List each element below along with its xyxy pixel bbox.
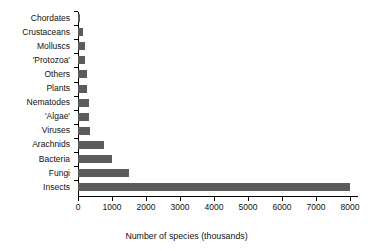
y-axis-tick-label: 'Algae' — [0, 112, 70, 120]
y-axis-tick — [74, 82, 78, 83]
bar — [78, 183, 350, 191]
x-axis-tick — [146, 197, 147, 201]
bar — [78, 28, 83, 36]
y-axis-tick — [74, 67, 78, 68]
x-axis-tick — [78, 197, 79, 201]
y-axis-tick-label: Nematodes — [0, 98, 70, 106]
x-axis-tick — [350, 197, 351, 201]
bar — [78, 70, 87, 78]
y-axis-category-labels: ChordatesCrustaceansMolluscs'Protozoa'Ot… — [0, 0, 74, 251]
y-axis-tick — [74, 152, 78, 153]
y-axis-tick-label: Chordates — [0, 14, 70, 22]
x-axis-tick — [316, 197, 317, 201]
x-axis-tick — [214, 197, 215, 201]
bar — [78, 14, 80, 22]
y-axis-tick — [74, 11, 78, 12]
y-axis-tick — [74, 138, 78, 139]
bar — [78, 42, 85, 50]
bar — [78, 56, 85, 64]
x-axis-title: Number of species (thousands) — [0, 231, 373, 241]
bar — [78, 127, 90, 135]
y-axis-tick-label: Plants — [0, 84, 70, 92]
bar-chart: ChordatesCrustaceansMolluscs'Protozoa'Ot… — [0, 0, 373, 251]
x-axis-tick — [112, 197, 113, 201]
y-axis-tick-label: Bacteria — [0, 155, 70, 163]
y-axis-tick — [74, 96, 78, 97]
y-axis-tick-label: 'Protozoa' — [0, 56, 70, 64]
y-axis-tick-label: Crustaceans — [0, 28, 70, 36]
y-axis-tick — [74, 166, 78, 167]
y-axis-tick — [74, 53, 78, 54]
y-axis-tick-label: Molluscs — [0, 42, 70, 50]
bar — [78, 99, 89, 107]
x-axis-tick-label: 8000 — [330, 202, 370, 212]
x-axis-tick — [282, 197, 283, 201]
bar — [78, 141, 104, 149]
y-axis-tick-label: Others — [0, 70, 70, 78]
bar — [78, 169, 129, 177]
y-axis-tick — [74, 110, 78, 111]
y-axis-tick — [74, 39, 78, 40]
y-axis-tick — [74, 25, 78, 26]
bar — [78, 113, 89, 121]
bar — [78, 85, 87, 93]
y-axis-tick-label: Viruses — [0, 126, 70, 134]
x-axis-tick — [180, 197, 181, 201]
y-axis-tick-label: Fungi — [0, 169, 70, 177]
x-axis-tick — [248, 197, 249, 201]
plot-area — [78, 12, 358, 196]
y-axis-tick — [74, 124, 78, 125]
y-axis-tick-label: Insects — [0, 183, 70, 191]
y-axis-tick — [74, 180, 78, 181]
y-axis-tick-label: Arachnids — [0, 140, 70, 148]
bar — [78, 155, 112, 163]
